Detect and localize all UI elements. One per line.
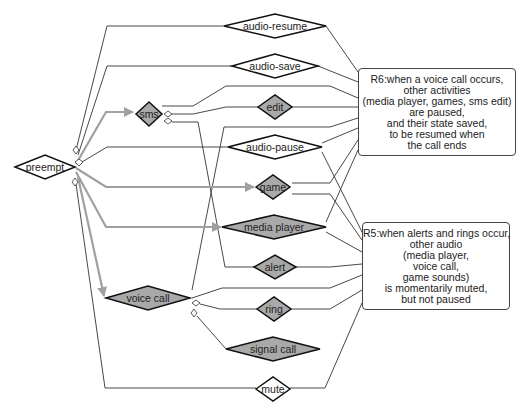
aggregation-diamond-icon (75, 159, 83, 166)
node-media-player[interactable]: media player (222, 215, 326, 239)
note-r5-line: R5:when alerts and rings occur, (363, 228, 509, 239)
svg-text:audio-save: audio-save (249, 60, 301, 72)
aggregation-diamond-icon (191, 309, 197, 317)
svg-text:media player: media player (244, 221, 305, 233)
node-signal-call[interactable]: signal call (226, 337, 320, 361)
edge-voicecall-signalcall (197, 316, 226, 349)
node-voice-call[interactable]: voice call (106, 286, 190, 310)
edge-voicecall-ring (200, 304, 257, 309)
note-r6: R6:when a voice call occurs, other activ… (358, 68, 516, 156)
note-r6-line: R6:when a voice call occurs, (359, 74, 515, 85)
svg-text:audio-resume: audio-resume (243, 20, 307, 32)
note-r5-line: (media player, (363, 250, 509, 261)
node-audio-pause[interactable]: audio-pause (228, 135, 322, 159)
connector-lines (76, 26, 362, 388)
arrow-edges (76, 112, 254, 296)
node-sms[interactable]: sms (136, 102, 162, 126)
svg-text:voice call: voice call (126, 292, 169, 304)
edge-sms-r6 (162, 86, 358, 106)
aggregation-diamond-icon (192, 300, 200, 306)
svg-text:sms: sms (139, 108, 158, 120)
note-r6-line: the call ends (359, 140, 515, 151)
svg-text:edit: edit (267, 101, 284, 113)
arrow-preempt-voice-call (78, 177, 104, 296)
aggregation-diamond-icon (73, 146, 79, 154)
note-r6-line: to be resumed when (359, 129, 515, 140)
node-audio-save[interactable]: audio-save (232, 54, 318, 78)
diagram-canvas: preempt audio-resume audio-save sms edit… (0, 0, 528, 418)
node-ring[interactable]: ring (257, 297, 291, 321)
svg-text:audio-pause: audio-pause (246, 141, 304, 153)
aggregation-diamond-icon (72, 178, 78, 186)
note-r5-line: is momentarily muted, (363, 283, 509, 294)
note-r5-line: voice call, (363, 261, 509, 272)
node-mute[interactable]: mute (256, 377, 290, 401)
arrow-preempt-media-player (76, 172, 221, 227)
svg-text:ring: ring (265, 303, 283, 315)
svg-text:alert: alert (265, 261, 286, 273)
node-edit[interactable]: edit (258, 95, 292, 119)
note-r5: R5:when alerts and rings occur, other au… (362, 222, 510, 310)
edge-preempt-mute (76, 184, 256, 388)
node-alert[interactable]: alert (254, 255, 296, 279)
svg-text:mute: mute (261, 383, 285, 395)
note-r5-line: other audio (363, 239, 509, 250)
arrow-preempt-game (76, 168, 254, 187)
note-r6-line: other activities (359, 85, 515, 96)
node-audio-resume[interactable]: audio-resume (224, 14, 326, 38)
note-r6-line: are paused, (359, 107, 515, 118)
arrow-preempt-sms (76, 112, 133, 164)
svg-text:game: game (260, 181, 286, 193)
edge-preempt-audio-pause (82, 147, 228, 162)
aggregation-markers (72, 111, 200, 317)
note-r6-line: and their state saved, (359, 118, 515, 129)
aggregation-diamond-icon (164, 118, 172, 124)
svg-text:preempt: preempt (26, 161, 65, 173)
node-game[interactable]: game (256, 175, 290, 199)
note-r5-line: but not paused (363, 294, 509, 305)
node-preempt[interactable]: preempt (15, 155, 75, 179)
edge-sms-edit (172, 107, 258, 114)
note-r6-line: (media player, games, sms edit) (359, 96, 515, 107)
edge-preempt-audio-resume (76, 26, 224, 150)
note-r5-line: game sounds) (363, 272, 509, 283)
aggregation-diamond-icon (164, 111, 172, 117)
svg-text:signal call: signal call (250, 343, 296, 355)
